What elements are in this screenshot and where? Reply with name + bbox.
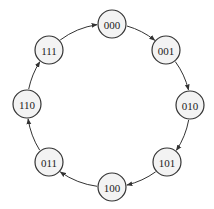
- state-node-010: 010: [176, 91, 204, 119]
- state-label: 010: [182, 100, 199, 112]
- transition-arrow: [29, 62, 40, 89]
- state-label: 111: [41, 45, 57, 57]
- transition-arrow: [28, 119, 40, 150]
- state-node-001: 001: [152, 36, 180, 64]
- transition-arrow: [127, 26, 155, 40]
- transition-arrow: [60, 25, 97, 40]
- state-node-011: 011: [35, 148, 63, 176]
- state-node-110: 110: [13, 90, 41, 118]
- state-label: 100: [104, 182, 121, 194]
- transition-arrow: [60, 172, 97, 186]
- nodes-layer: 000001010101100011110111: [13, 10, 204, 201]
- transition-arrow: [127, 172, 156, 185]
- state-node-000: 000: [98, 10, 126, 38]
- state-label: 000: [104, 19, 121, 31]
- state-label: 110: [19, 99, 36, 111]
- state-label: 101: [159, 157, 176, 169]
- state-node-101: 101: [153, 148, 181, 176]
- state-label: 001: [158, 45, 175, 57]
- transition-arrow: [175, 62, 188, 90]
- state-node-100: 100: [98, 173, 126, 201]
- state-diagram: 000001010101100011110111: [0, 0, 214, 209]
- transition-arrow: [176, 120, 188, 150]
- state-node-111: 111: [35, 36, 63, 64]
- state-label: 011: [41, 157, 57, 169]
